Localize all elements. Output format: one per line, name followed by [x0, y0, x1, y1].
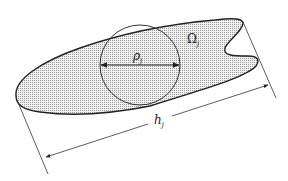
h-length-arrow-left [46, 124, 148, 157]
h-label: hj [154, 113, 165, 129]
domain-diagram: ρj Ωj hj [0, 0, 288, 181]
